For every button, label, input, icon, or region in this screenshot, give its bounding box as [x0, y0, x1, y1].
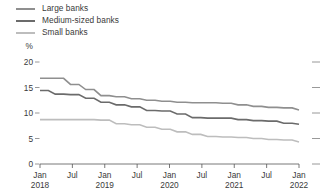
y-axis-tick-label: 5: [28, 134, 33, 144]
x-axis-month-label: Jan: [163, 170, 177, 180]
y-axis-unit-label: %: [26, 41, 34, 51]
series-line-small-banks: [40, 120, 299, 142]
x-axis-month-label: Jan: [228, 170, 242, 180]
x-axis-month-label: Jan: [33, 170, 47, 180]
y-axis-tick-label: 0: [28, 159, 33, 169]
x-axis-year-label: 2019: [96, 180, 115, 190]
y-axis-tick-label: 20: [24, 57, 34, 67]
x-axis-month-label: Jul: [132, 170, 143, 180]
x-axis-year-label: 2021: [225, 180, 244, 190]
x-axis-month-label: Jan: [98, 170, 112, 180]
x-axis-month-label: Jul: [261, 170, 272, 180]
x-axis: Jan2018JulJan2019JulJan2020JulJan2021Jul…: [31, 164, 309, 190]
x-axis-year-label: 2020: [160, 180, 179, 190]
x-axis-year-label: 2022: [290, 180, 309, 190]
y-axis: %20151050: [24, 41, 40, 169]
x-axis-year-label: 2018: [31, 180, 50, 190]
plot-area: %20151050 Jan2018JulJan2019JulJan2020Jul…: [0, 0, 327, 193]
bank-ratio-line-chart: Large banks Medium-sized banks Small ban…: [0, 0, 327, 193]
x-axis-month-label: Jul: [67, 170, 78, 180]
data-series: [40, 78, 299, 142]
right-axis-ticks: [312, 62, 320, 164]
x-axis-month-label: Jan: [292, 170, 306, 180]
y-axis-tick-label: 15: [24, 83, 34, 93]
y-axis-tick-label: 10: [24, 108, 34, 118]
x-axis-month-label: Jul: [197, 170, 208, 180]
